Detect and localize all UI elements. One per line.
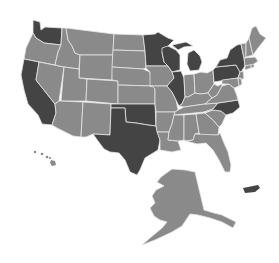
us-states-map bbox=[0, 0, 279, 263]
state-wy[interactable] bbox=[79, 55, 113, 80]
territory-pr[interactable] bbox=[243, 185, 260, 193]
state-ma[interactable] bbox=[244, 57, 258, 66]
state-sd[interactable] bbox=[112, 50, 146, 69]
state-hi[interactable] bbox=[34, 151, 56, 166]
state-ks[interactable] bbox=[118, 85, 155, 104]
state-az[interactable] bbox=[52, 101, 83, 137]
state-co[interactable] bbox=[86, 79, 118, 104]
state-nm[interactable] bbox=[81, 102, 111, 137]
state-nd[interactable] bbox=[113, 34, 145, 51]
state-ak[interactable] bbox=[142, 169, 236, 245]
state-ne[interactable] bbox=[112, 67, 152, 86]
